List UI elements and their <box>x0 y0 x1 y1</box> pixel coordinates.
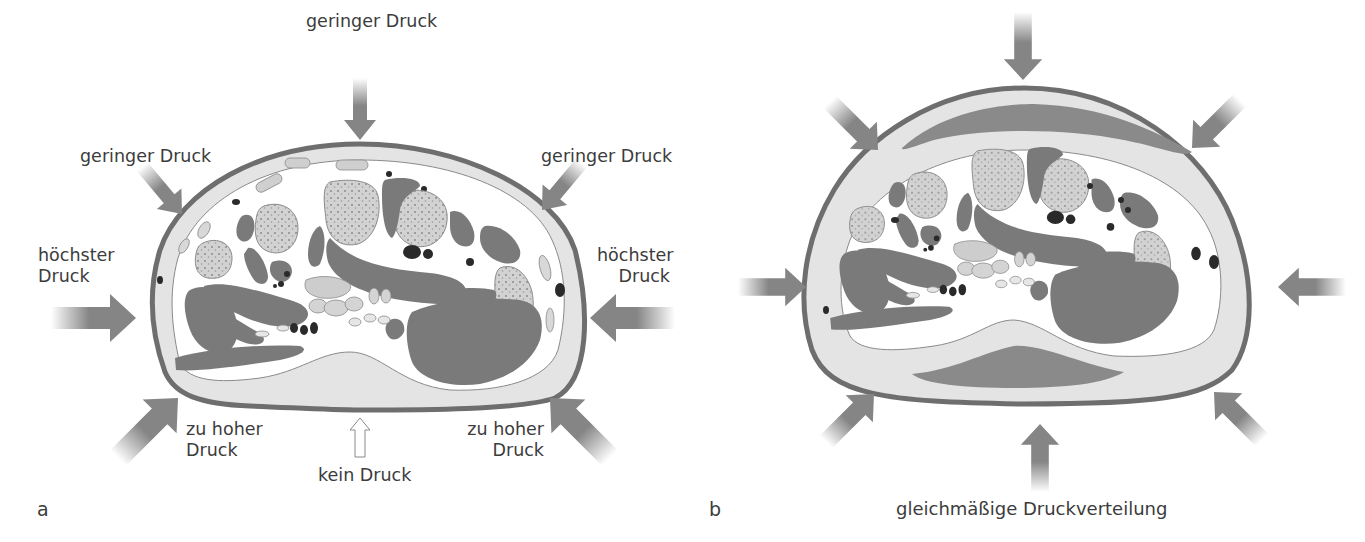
arrow-b-right <box>1278 268 1346 306</box>
panel-letter-a: a <box>37 498 49 520</box>
arrow-left-high <box>51 294 136 342</box>
arrow-b-lower-right <box>1200 378 1275 453</box>
label-upper-left: geringer Druck <box>80 146 211 167</box>
label-lower-right: zu hoher Druck <box>456 419 544 461</box>
label-right-high-line1: höchster <box>597 245 670 266</box>
arrow-b-top <box>1004 12 1042 80</box>
label-right-high-line2: Druck <box>597 266 670 287</box>
label-lower-left-line1: zu hoher <box>186 419 263 440</box>
label-lower-right-line1: zu hoher <box>456 419 544 440</box>
label-right-high: höchster Druck <box>597 245 670 287</box>
panel-b: b gleichmäßige Druckverteilung <box>700 0 1365 542</box>
arrow-b-upper-right <box>1178 86 1253 161</box>
arrow-b-left <box>738 268 806 306</box>
arrow-right-high <box>590 294 675 342</box>
arrow-b-bottom <box>1021 424 1059 492</box>
label-lower-left-line2: Druck <box>186 440 263 461</box>
label-top: geringer Druck <box>306 11 437 32</box>
arrow-lower-left <box>101 381 195 475</box>
panel-letter-b: b <box>709 498 721 520</box>
arrow-bottom-none <box>350 418 370 457</box>
label-upper-right: geringer Druck <box>541 146 672 167</box>
arrow-top <box>344 78 376 140</box>
label-left-high-line2: Druck <box>38 266 114 287</box>
caption-b: gleichmäßige Druckverteilung <box>896 498 1167 519</box>
label-left-high-line1: höchster <box>38 245 114 266</box>
label-lower-left: zu hoher Druck <box>186 419 263 461</box>
label-bottom: kein Druck <box>318 465 411 486</box>
label-lower-right-line2: Druck <box>456 440 544 461</box>
panel-a: geringer Druck geringer Druck geringer D… <box>0 0 700 542</box>
leg-cross-section-even <box>700 0 1365 542</box>
label-left-high: höchster Druck <box>38 245 114 287</box>
